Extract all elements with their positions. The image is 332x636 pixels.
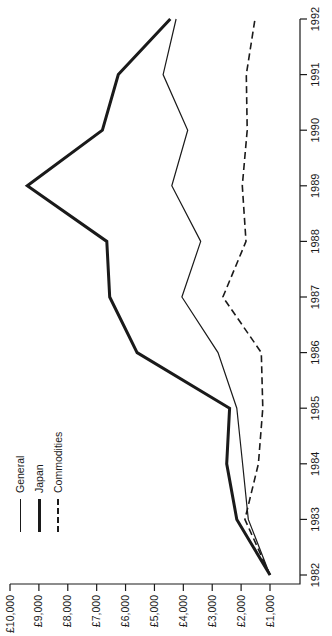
y-axis-tick-label: £5,000 xyxy=(148,595,160,627)
series-line-commodities xyxy=(223,19,270,575)
legend-label: Japan xyxy=(33,464,45,493)
y-axis-tick-label: £8,000 xyxy=(61,595,73,627)
x-axis-tick-label: 1988 xyxy=(309,229,321,253)
y-axis-tick-label: £2,000 xyxy=(235,595,247,627)
x-axis-tick-label: 1990 xyxy=(309,118,321,142)
x-axis-tick-label: 1987 xyxy=(309,285,321,309)
y-axis-tick-label: £1,000 xyxy=(264,595,276,627)
y-axis-tick-label: £3,000 xyxy=(206,595,218,627)
legend-item-commodities: Commodities xyxy=(49,432,67,532)
dashed-line-icon xyxy=(57,499,59,532)
y-axis-tick-label: £4,000 xyxy=(177,595,189,627)
x-axis-tick-label: 1986 xyxy=(309,340,321,364)
chart-svg: 1982198319841985198619871988198919901991… xyxy=(0,0,332,636)
chart-page: 1982198319841985198619871988198919901991… xyxy=(0,0,332,636)
x-axis-tick-label: 1983 xyxy=(309,507,321,531)
thin-solid-line-icon xyxy=(20,499,21,532)
y-axis-tick-label: £6,000 xyxy=(119,595,131,627)
y-axis-tick-label: £9,000 xyxy=(32,595,44,627)
series-line-general xyxy=(163,19,270,575)
chart-legend: General Japan Commodities xyxy=(11,432,68,532)
y-axis-tick-label: £10,000 xyxy=(4,595,16,633)
y-axis-tick-label: £7,000 xyxy=(90,595,102,627)
legend-item-general: General xyxy=(11,432,29,532)
x-axis-tick-label: 1989 xyxy=(309,174,321,198)
x-axis-tick-label: 1992 xyxy=(309,7,321,31)
thick-solid-line-icon xyxy=(38,499,41,532)
legend-label: General xyxy=(14,456,26,493)
x-axis-tick-label: 1991 xyxy=(309,62,321,86)
x-axis-tick-label: 1985 xyxy=(309,396,321,420)
legend-item-japan: Japan xyxy=(30,432,48,532)
rotated-chart-container: 1982198319841985198619871988198919901991… xyxy=(0,0,332,636)
x-axis-tick-label: 1982 xyxy=(309,563,321,587)
legend-label: Commodities xyxy=(52,432,64,493)
x-axis-tick-label: 1984 xyxy=(309,452,321,476)
